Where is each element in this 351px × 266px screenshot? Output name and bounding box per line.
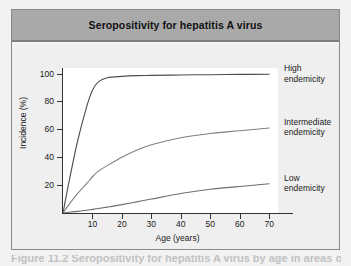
y-tick [57, 185, 62, 186]
y-axis-title: Incidence (%) [18, 87, 28, 159]
y-tick-label: 80 [28, 97, 54, 106]
figure-caption-clipped: Figure 11.2 Seropositivity for hepatitis… [11, 255, 341, 266]
y-tick [57, 129, 62, 130]
x-axis-line [62, 213, 293, 214]
series-label-2: Intermediateendemicity [284, 117, 340, 138]
x-tick-label: 10 [82, 220, 102, 229]
figure-page: Seropositivity for hepatitis A virus 204… [0, 0, 351, 266]
series-label-1: Highendemicity [284, 63, 340, 84]
series-label-line2: endemicity [284, 183, 340, 194]
chart-area: 20406080100 10203040506070 Incidence (%)… [12, 44, 339, 250]
y-tick [57, 101, 62, 102]
chart-title-band: Seropositivity for hepatitis A virus [12, 10, 339, 42]
series-label-line2: endemicity [284, 74, 340, 85]
series-label-line2: endemicity [284, 127, 340, 138]
chart-title: Seropositivity for hepatitis A virus [89, 19, 263, 31]
x-tick-label: 30 [141, 220, 161, 229]
x-tick-label: 60 [230, 220, 250, 229]
y-tick-label: 20 [28, 181, 54, 190]
y-tick-label: 40 [28, 153, 54, 162]
figure-frame: Seropositivity for hepatitis A virus 204… [11, 9, 340, 250]
x-tick-label: 70 [259, 220, 279, 229]
x-tick-label: 50 [200, 220, 220, 229]
series-line-3 [63, 184, 269, 213]
series-line-2 [63, 128, 269, 213]
series-label-3: Lowendemicity [284, 173, 340, 194]
x-tick-label: 20 [112, 220, 132, 229]
figure-caption-text: Figure 11.2 Seropositivity for hepatitis… [11, 255, 341, 264]
y-tick [57, 74, 62, 75]
series-label-line1: High [284, 63, 340, 74]
series-curves [63, 68, 278, 213]
series-label-line1: Intermediate [284, 117, 340, 128]
y-tick-label: 100 [28, 70, 54, 79]
y-tick [57, 157, 62, 158]
x-axis-title: Age (years) [62, 233, 293, 243]
x-tick-label: 40 [171, 220, 191, 229]
y-tick-label: 60 [28, 125, 54, 134]
series-line-1 [63, 74, 269, 213]
series-label-line1: Low [284, 173, 340, 184]
